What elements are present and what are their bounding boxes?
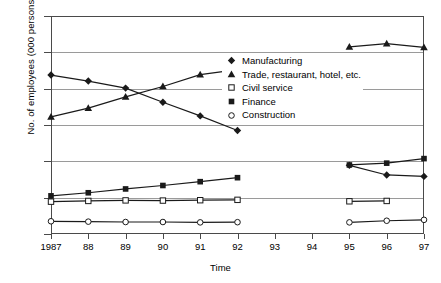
gridline-200 bbox=[52, 198, 423, 199]
y-tick-mark-1000 bbox=[44, 52, 51, 53]
legend-item-manufacturing[interactable]: Manufacturing bbox=[224, 54, 361, 68]
y-axis-title: No. of employees (000 persons) bbox=[25, 0, 36, 156]
x-tick-label-93: 93 bbox=[255, 241, 295, 252]
y-tick-mark-1200 bbox=[44, 16, 51, 17]
filled-square-icon bbox=[224, 96, 239, 107]
legend-item-construction[interactable]: Construction bbox=[224, 108, 361, 122]
x-tick-mark-90 bbox=[163, 234, 164, 239]
x-tick-label-97: 97 bbox=[404, 241, 441, 252]
x-tick-mark-96 bbox=[387, 234, 388, 239]
y-tick-mark-0 bbox=[44, 234, 51, 235]
x-tick-label-94: 94 bbox=[292, 241, 332, 252]
employment-line-chart: No. of employees (000 persons) Time 1200… bbox=[0, 0, 441, 283]
legend-label: Construction bbox=[239, 108, 295, 122]
open-circle-icon bbox=[224, 110, 239, 121]
x-tick-mark-95 bbox=[349, 234, 350, 239]
open-square-icon bbox=[224, 82, 239, 93]
filled-diamond-icon bbox=[224, 55, 239, 66]
legend-item-trade-restaurant-hotel-etc[interactable]: Trade, restaurant, hotel, etc. bbox=[224, 68, 361, 82]
x-tick-mark-93 bbox=[275, 234, 276, 239]
x-tick-label-90: 90 bbox=[143, 241, 183, 252]
y-tick-mark-600 bbox=[44, 125, 51, 126]
plot-area bbox=[51, 16, 424, 234]
x-tick-label-95: 95 bbox=[329, 241, 369, 252]
x-axis-title: Time bbox=[0, 262, 441, 273]
legend-label: Civil service bbox=[239, 81, 293, 95]
gridline-600 bbox=[52, 125, 423, 126]
gridline-400 bbox=[52, 161, 423, 162]
x-tick-mark-89 bbox=[126, 234, 127, 239]
x-tick-label-89: 89 bbox=[106, 241, 146, 252]
y-tick-mark-800 bbox=[44, 89, 51, 90]
legend: ManufacturingTrade, restaurant, hotel, e… bbox=[222, 53, 363, 123]
x-tick-mark-97 bbox=[424, 234, 425, 239]
legend-label: Trade, restaurant, hotel, etc. bbox=[239, 68, 361, 82]
x-tick-label-88: 88 bbox=[68, 241, 108, 252]
x-tick-label-96: 96 bbox=[367, 241, 407, 252]
legend-label: Manufacturing bbox=[239, 54, 302, 68]
legend-label: Finance bbox=[239, 95, 276, 109]
y-tick-mark-200 bbox=[44, 198, 51, 199]
legend-item-civil-service[interactable]: Civil service bbox=[224, 81, 361, 95]
x-tick-mark-94 bbox=[312, 234, 313, 239]
x-tick-mark-92 bbox=[238, 234, 239, 239]
y-tick-mark-400 bbox=[44, 161, 51, 162]
x-tick-label-92: 92 bbox=[218, 241, 258, 252]
x-tick-label-1987: 1987 bbox=[31, 241, 71, 252]
x-tick-label-91: 91 bbox=[180, 241, 220, 252]
filled-triangle-icon bbox=[224, 69, 239, 80]
x-tick-mark-1987 bbox=[51, 234, 52, 239]
x-tick-mark-91 bbox=[200, 234, 201, 239]
legend-item-finance[interactable]: Finance bbox=[224, 95, 361, 109]
x-tick-mark-88 bbox=[88, 234, 89, 239]
